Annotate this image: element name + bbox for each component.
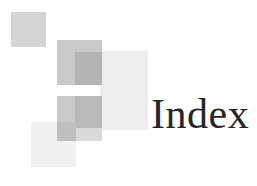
decorative-square-bottom-overlap: [57, 122, 76, 141]
decorative-square-lower-overlap: [75, 96, 102, 128]
decorative-square-top-left: [11, 12, 46, 47]
index-page: Index: [0, 0, 257, 186]
page-title: Index: [151, 92, 249, 136]
decorative-square-upper-overlap: [75, 52, 102, 85]
decorative-square-large-light: [100, 51, 148, 130]
decorative-square-bottom-right-overlap: [76, 128, 102, 141]
